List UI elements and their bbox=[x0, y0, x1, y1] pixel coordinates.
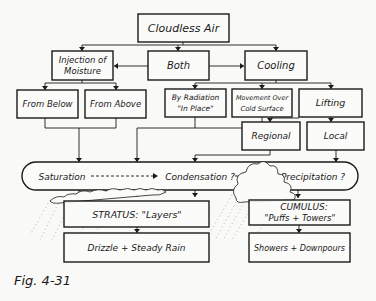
node-from-above: From Above bbox=[85, 90, 146, 118]
node-local: Local bbox=[307, 122, 364, 150]
node-drizzle-steady-rain: Drizzle + Steady Rain bbox=[64, 233, 209, 262]
node-cloudless-air: Cloudless Air bbox=[138, 14, 229, 42]
lifting-label: Lifting bbox=[316, 97, 346, 108]
from-above-label: From Above bbox=[90, 99, 141, 109]
node-by-radiation: By Radiation "In Place" bbox=[165, 89, 226, 117]
node-cumulus: CUMULUS: "Puffs + Towers" bbox=[249, 200, 350, 225]
cumulus-label-line2: "Puffs + Towers" bbox=[265, 213, 336, 223]
showers-label: Showers + Downpours bbox=[254, 244, 345, 253]
node-movement-over-cold-surface: Movement Over Cold Surface bbox=[232, 89, 292, 117]
from-below-label: From Below bbox=[22, 99, 72, 109]
node-showers-downpours: Showers + Downpours bbox=[249, 233, 350, 262]
regional-label: Regional bbox=[251, 131, 291, 141]
precipitation-label: Precipitation ? bbox=[281, 172, 345, 182]
injection-label-line2: Moisture bbox=[64, 66, 101, 76]
cumulus-label-line1: CUMULUS: bbox=[280, 202, 328, 212]
node-cloudless-air-label: Cloudless Air bbox=[148, 22, 221, 35]
condensation-label: Condensation ? bbox=[165, 172, 235, 182]
node-lifting: Lifting bbox=[299, 89, 362, 117]
node-cooling: Cooling bbox=[245, 51, 307, 80]
node-both: Both bbox=[148, 51, 209, 80]
diagram-canvas: Cloudless Air Injection of Moisture Both… bbox=[0, 0, 376, 301]
cooling-label: Cooling bbox=[257, 60, 294, 71]
node-injection-of-moisture: Injection of Moisture bbox=[52, 51, 113, 80]
drizzle-label: Drizzle + Steady Rain bbox=[87, 243, 185, 253]
saturation-label: Saturation bbox=[39, 172, 86, 182]
movement-label-line1: Movement Over bbox=[236, 94, 289, 102]
radiation-label-line2: "In Place" bbox=[177, 104, 213, 113]
radiation-label-line1: By Radiation bbox=[172, 93, 220, 102]
movement-label-line2: Cold Surface bbox=[240, 105, 283, 113]
local-label: Local bbox=[324, 131, 348, 141]
node-from-below: From Below bbox=[17, 90, 78, 118]
figure-caption: Fig. 4-31 bbox=[14, 273, 71, 288]
node-stratus: STRATUS: "Layers" bbox=[64, 201, 209, 227]
stratus-label: STRATUS: "Layers" bbox=[92, 209, 181, 220]
node-regional: Regional bbox=[242, 122, 300, 150]
process-pill: Saturation Condensation ? Precipitation … bbox=[22, 162, 358, 190]
injection-label-line1: Injection of bbox=[59, 55, 108, 65]
both-label: Both bbox=[167, 60, 190, 71]
